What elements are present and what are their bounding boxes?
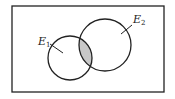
set-e1-label: E1 [37, 35, 51, 49]
e1-label-pointer [50, 44, 63, 53]
venn-diagram: E1 E2 [0, 0, 175, 99]
set-e2-label: E2 [132, 13, 146, 27]
